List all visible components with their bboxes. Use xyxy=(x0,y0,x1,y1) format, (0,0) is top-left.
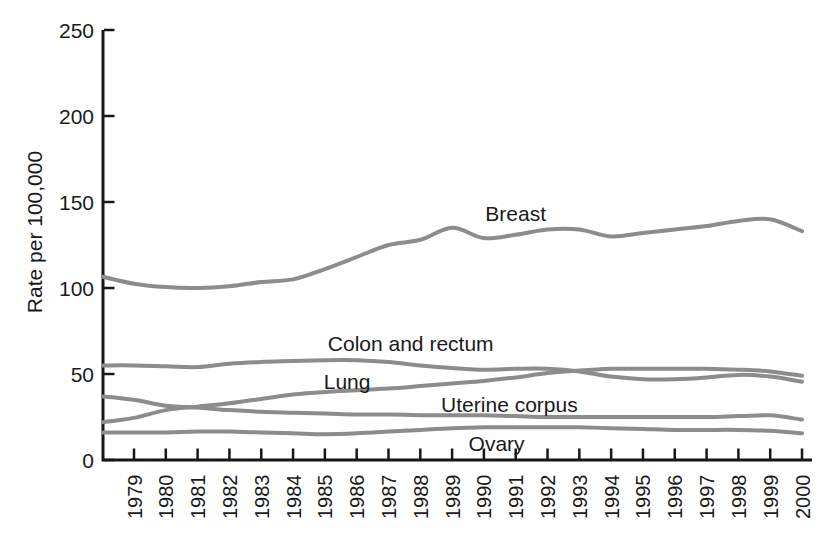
series-colon-and-rectum-line xyxy=(103,360,802,382)
x-tick-label: 1985 xyxy=(314,475,336,520)
y-axis-ticks: 050100150200250 xyxy=(59,19,115,472)
y-tick-label: 250 xyxy=(59,19,94,42)
figure-canvas: 050100150200250 197919801981198219831984… xyxy=(0,0,826,541)
series-label-breast: Breast xyxy=(485,202,546,225)
x-tick-label: 1981 xyxy=(187,475,209,520)
x-tick-label: 1991 xyxy=(505,475,527,520)
x-tick-label: 1984 xyxy=(283,475,305,520)
x-tick-label: 1993 xyxy=(569,475,591,520)
x-tick-label: 1980 xyxy=(155,475,177,520)
series-label-lung: Lung xyxy=(324,370,371,393)
line-chart: 050100150200250 197919801981198219831984… xyxy=(0,0,826,541)
x-tick-label: 1990 xyxy=(473,475,495,520)
x-tick-label: 1995 xyxy=(632,475,654,520)
x-tick-label: 1994 xyxy=(601,475,623,520)
y-tick-label: 100 xyxy=(59,277,94,300)
series-label-uterine-corpus: Uterine corpus xyxy=(441,393,578,416)
x-tick-label: 1983 xyxy=(251,475,273,520)
x-tick-label: 2000 xyxy=(792,475,814,520)
x-tick-label: 1996 xyxy=(664,475,686,520)
y-tick-label: 150 xyxy=(59,191,94,214)
x-tick-label: 1987 xyxy=(378,475,400,520)
y-tick-label: 200 xyxy=(59,105,94,128)
x-tick-label: 1998 xyxy=(728,475,750,520)
series-ovary-line xyxy=(103,427,802,434)
x-tick-label: 1992 xyxy=(537,475,559,520)
y-tick-label: 0 xyxy=(82,449,94,472)
x-tick-label: 1997 xyxy=(696,475,718,520)
x-tick-label: 1989 xyxy=(442,475,464,520)
x-tick-label: 1979 xyxy=(124,475,146,520)
x-tick-label: 1982 xyxy=(219,475,241,520)
x-tick-label: 1999 xyxy=(760,475,782,520)
x-tick-label: 1988 xyxy=(410,475,432,520)
series-label-colon-and-rectum: Colon and rectum xyxy=(328,332,494,355)
series-breast-line xyxy=(103,219,802,288)
series-label-ovary: Ovary xyxy=(469,432,526,455)
x-tick-label: 1986 xyxy=(346,475,368,520)
y-tick-label: 50 xyxy=(71,363,94,386)
y-axis-title: Rate per 100,000 xyxy=(23,151,46,313)
